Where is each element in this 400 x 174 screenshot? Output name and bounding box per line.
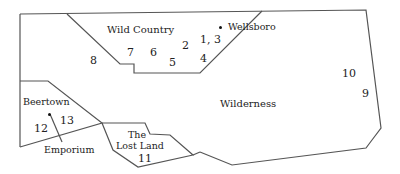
site-label: 7	[127, 47, 134, 58]
site-label: 11	[138, 153, 152, 164]
town-emporium: Emporium	[44, 145, 94, 155]
site-label: 9	[362, 88, 369, 99]
wellsboro-marker	[219, 26, 222, 29]
town-wellsboro: Wellsboro	[228, 22, 276, 32]
site-label: 12	[34, 123, 48, 134]
site-label: 1, 3	[200, 34, 221, 45]
site-label: 4	[200, 53, 207, 64]
site-label: 8	[90, 55, 97, 66]
site-label: 10	[342, 68, 356, 79]
wilderness-south-boundary	[193, 152, 200, 155]
region-lost-land-line1: The	[128, 130, 146, 140]
site-label: 5	[169, 57, 176, 68]
beertown-marker	[48, 113, 51, 116]
site-label: 13	[60, 115, 74, 126]
region-wild-country: Wild Country	[107, 25, 174, 35]
town-beertown: Beertown	[23, 97, 70, 107]
region-lost-land-line2: Lost Land	[116, 141, 164, 151]
site-label: 6	[150, 47, 157, 58]
region-wilderness: Wilderness	[220, 99, 276, 109]
site-label: 2	[182, 40, 189, 51]
